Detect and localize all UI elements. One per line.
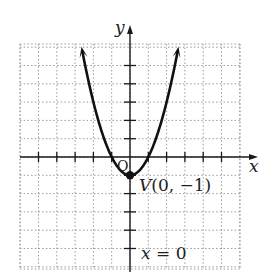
labels: y x O V(0, −1) x = 0 [114, 17, 259, 263]
vertex-label: V(0, −1) [139, 175, 211, 195]
y-axis-label: y [114, 17, 125, 37]
vertex-coords: (0, −1) [151, 175, 211, 195]
axis-of-symmetry-label: x = 0 [141, 243, 186, 263]
origin-label: O [117, 158, 128, 174]
y-axis-arrow-icon [127, 25, 133, 34]
x-axis-label: x [249, 156, 259, 176]
axes [20, 25, 258, 272]
parabola-graph: y x O V(0, −1) x = 0 [0, 0, 273, 278]
